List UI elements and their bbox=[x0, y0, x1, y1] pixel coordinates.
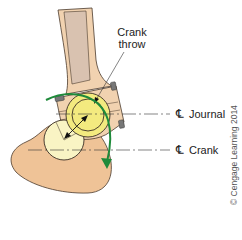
journal-centerline-label: ℄Journal bbox=[176, 108, 225, 120]
crank-centerline-label: ℄Crank bbox=[176, 144, 218, 156]
crank-throw-label-line1: Crank bbox=[112, 26, 152, 38]
crank-throw-label: Crank throw bbox=[112, 26, 152, 50]
bolt-head-icon bbox=[118, 120, 124, 129]
journal-label-text: Journal bbox=[189, 108, 225, 120]
centerline-symbol-icon: ℄ bbox=[176, 144, 184, 156]
crank-throw-label-line2: throw bbox=[112, 38, 152, 50]
copyright-notice: © Cengage Learning 2014 bbox=[229, 105, 239, 205]
bolt-head-icon bbox=[110, 82, 116, 91]
crank-label-text: Crank bbox=[189, 144, 218, 156]
centerline-symbol-icon: ℄ bbox=[176, 108, 184, 120]
